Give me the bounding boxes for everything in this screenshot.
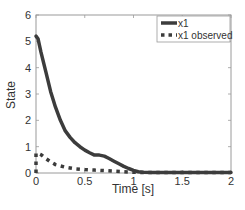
y-tick-label: 4: [25, 62, 31, 74]
y-tick-label: 5: [25, 35, 31, 47]
y-tick-label: 0: [25, 167, 31, 179]
y-tick-label: 6: [25, 9, 31, 21]
y-axis-label: State: [4, 81, 18, 109]
y-tick-label: 3: [25, 88, 31, 100]
x-tick-label: 0.5: [77, 175, 92, 187]
legend-label-x1: x1: [178, 18, 189, 29]
x-tick-label: 1.5: [175, 175, 190, 187]
legend-label-x1-observed: x1 observed: [178, 30, 232, 41]
x-tick-label: 2: [228, 175, 234, 187]
x-axis-label: Time [s]: [112, 182, 154, 196]
legend: x1 x1 observed: [157, 16, 232, 42]
line-chart: 0123456 00.511.52 Time [s] State x1 x1 o…: [0, 0, 245, 210]
y-tick-label: 2: [25, 114, 31, 126]
x-tick-label: 0: [33, 175, 39, 187]
y-tick-label: 1: [25, 141, 31, 153]
